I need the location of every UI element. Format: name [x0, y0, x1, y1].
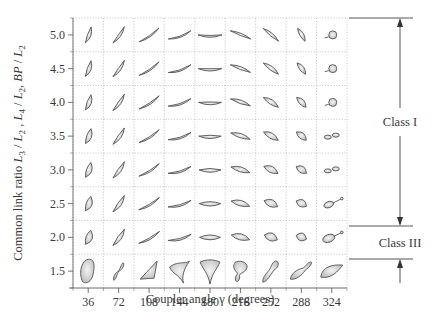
coupler-curve — [263, 28, 278, 41]
coupler-curve — [113, 27, 124, 43]
coupler-curve — [85, 163, 92, 178]
coupler-curve — [263, 63, 278, 74]
coupler-curve — [199, 168, 221, 172]
coupler-curve — [231, 200, 250, 207]
y-tick-label: 5.0 — [50, 28, 65, 42]
y-tick-label: 1.5 — [50, 264, 65, 278]
coupler-curve — [296, 199, 306, 207]
coupler-curve — [298, 28, 306, 41]
coupler-curve — [231, 234, 249, 241]
coupler-curve — [139, 96, 159, 109]
coupler-curve — [139, 231, 160, 243]
coupler-curve — [264, 166, 278, 174]
y-axis-label: Common link ratio L3 / L2 , L4 / L2, BP … — [11, 45, 27, 261]
class-label-III: Class III — [379, 236, 422, 250]
y-tick-label: 4.0 — [50, 95, 65, 109]
coupler-curve — [139, 62, 159, 75]
coupler-curve — [85, 230, 92, 244]
coupler-curve — [297, 97, 306, 107]
coupler-curve — [168, 133, 191, 140]
coupler-curve — [199, 202, 221, 206]
coupler-curve — [324, 133, 339, 139]
coupler-curve — [168, 65, 191, 73]
coupler-curve — [323, 197, 343, 209]
y-tick-label: 4.5 — [50, 62, 65, 76]
coupler-curve — [140, 261, 157, 279]
coupler-curve — [113, 229, 124, 245]
coupler-curve — [113, 162, 124, 178]
coupler-curve — [263, 261, 279, 282]
coupler-curve — [264, 132, 279, 141]
coupler-curve — [290, 262, 311, 279]
arrow-up-icon — [397, 18, 403, 27]
curve-cells — [81, 27, 343, 284]
coupler-curve — [168, 99, 191, 107]
coupler-curve — [85, 95, 91, 110]
coupler-curve — [296, 132, 306, 140]
y-axis: 5.04.54.03.53.02.52.01.5 — [50, 18, 73, 288]
class-bracket-III — [349, 259, 413, 283]
coupler-curve — [85, 196, 92, 210]
x-axis-label: Coupler angle γ (degrees) — [146, 292, 275, 306]
coupler-curve — [168, 166, 191, 173]
coupler-curve — [114, 263, 124, 280]
coupler-curve — [321, 265, 343, 277]
coupler-curve — [230, 31, 250, 39]
coupler-curve — [200, 235, 221, 240]
coupler-curve — [264, 233, 277, 241]
coupler-curve — [139, 28, 159, 42]
coupler-curve — [113, 94, 124, 110]
coupler-curve — [139, 164, 159, 177]
coupler-curve — [325, 65, 337, 73]
x-tick-label: 288 — [292, 295, 310, 309]
y-tick-label: 3.5 — [50, 129, 65, 143]
coupler-curve — [230, 65, 250, 73]
coupler-curve — [325, 98, 337, 106]
class-label-I: Class I — [383, 115, 417, 129]
coupler-curve — [325, 31, 337, 39]
coupler-curve — [263, 97, 278, 107]
coupler-curve — [296, 166, 306, 174]
coupler-curve — [198, 35, 222, 37]
arrow-up-icon — [397, 259, 403, 268]
coupler-curve — [199, 135, 222, 138]
coupler-curve — [297, 63, 306, 74]
coupler-curve — [231, 99, 251, 106]
y-tick-label: 2.0 — [50, 230, 65, 244]
coupler-curve — [264, 199, 278, 207]
coupler-curve — [296, 233, 306, 241]
coupler-curve — [139, 130, 159, 143]
coupler-curve — [324, 167, 339, 173]
coupler-curve — [200, 260, 220, 284]
x-tick-label: 324 — [323, 295, 341, 309]
coupler-curve — [231, 166, 250, 173]
coupler-curve — [168, 234, 191, 241]
coupler-curve — [139, 197, 160, 209]
coupler-curve — [199, 102, 222, 105]
coupler-curve — [234, 261, 247, 281]
coupler-curve — [85, 129, 92, 144]
coupler-curve — [85, 27, 91, 43]
coupler-curve — [113, 60, 124, 76]
y-tick-label: 2.5 — [50, 197, 65, 211]
coupler-curve — [168, 31, 191, 39]
x-tick-label: 36 — [82, 295, 94, 309]
coupler-curve — [113, 195, 124, 211]
y-tick-label: 3.0 — [50, 163, 65, 177]
coupler-curve — [81, 259, 94, 283]
x-tick-label: 72 — [113, 295, 125, 309]
grid — [73, 18, 347, 288]
coupler-curve — [322, 231, 343, 244]
coupler-curve — [198, 69, 222, 71]
coupler-curve — [170, 261, 190, 283]
coupler-curve — [168, 200, 191, 207]
coupler-curve — [113, 128, 124, 144]
coupler-curve — [85, 61, 91, 77]
coupler-curve — [231, 133, 250, 140]
arrow-down-icon — [397, 217, 403, 226]
